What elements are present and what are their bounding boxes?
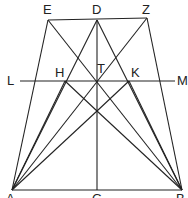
point-label-L: L xyxy=(7,74,14,87)
point-label-E: E xyxy=(43,3,52,16)
geometry-diagram: EDZLHTKMAGB xyxy=(0,0,188,198)
point-label-G: G xyxy=(92,192,102,198)
point-label-H: H xyxy=(55,66,64,79)
point-label-T: T xyxy=(97,62,105,75)
segment-EZ xyxy=(48,18,147,20)
segment-AH xyxy=(12,81,65,190)
segment-EB xyxy=(48,20,182,190)
point-label-D: D xyxy=(92,3,101,16)
point-label-M: M xyxy=(177,74,188,87)
point-label-B: B xyxy=(176,192,185,198)
segment-XB xyxy=(97,111,182,190)
segment-ZA xyxy=(12,18,147,190)
point-label-A: A xyxy=(6,192,15,198)
point-label-K: K xyxy=(131,66,140,79)
segment-HX xyxy=(65,81,97,111)
point-label-Z: Z xyxy=(142,3,150,16)
segment-XA xyxy=(12,111,97,190)
segment-BK xyxy=(129,81,182,190)
segment-AE xyxy=(12,20,48,190)
segment-BZ xyxy=(147,18,182,190)
diagram-lines xyxy=(0,0,188,198)
segment-KX xyxy=(97,81,129,111)
